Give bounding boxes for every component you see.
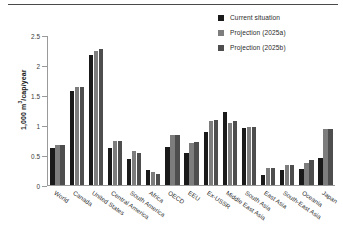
y-tick-label: 2.5 <box>31 33 40 40</box>
bar[interactable] <box>204 132 208 185</box>
bar-groups <box>48 21 335 185</box>
bar-group <box>297 21 316 185</box>
bar[interactable] <box>50 148 54 185</box>
plot-area: 00.511.522.5 <box>47 21 335 186</box>
bar[interactable] <box>247 127 251 185</box>
y-tick-label: 0.5 <box>31 153 40 160</box>
x-label-cell: Canada <box>67 188 86 237</box>
bar[interactable] <box>89 55 93 185</box>
bar-group <box>220 21 239 185</box>
bar[interactable] <box>223 112 227 185</box>
y-tick-mark: 1 <box>42 126 47 127</box>
x-label-cell: Africa <box>144 188 163 237</box>
bar[interactable] <box>189 143 193 185</box>
bar[interactable] <box>99 49 103 185</box>
x-label-cell: OECD <box>163 188 182 237</box>
bar[interactable] <box>233 121 237 185</box>
x-label-cell: South-East Asia <box>278 188 297 237</box>
bar-group <box>201 21 220 185</box>
x-label-cell: EEU <box>182 188 201 237</box>
x-tick-label: EEU <box>187 189 202 202</box>
x-label-cell: Central America <box>105 188 124 237</box>
x-axis-labels: WorldCanadaUnited StatesCentral AmericaS… <box>48 188 335 237</box>
bar-group <box>86 21 105 185</box>
bar[interactable] <box>113 141 117 185</box>
bar[interactable] <box>165 147 169 185</box>
bar[interactable] <box>156 174 160 185</box>
bar[interactable] <box>309 160 313 185</box>
x-label-cell: United States <box>86 188 105 237</box>
x-label-cell: East Asia <box>259 188 278 237</box>
bar[interactable] <box>214 120 218 185</box>
bar-group <box>239 21 258 185</box>
bar[interactable] <box>209 121 213 185</box>
bar[interactable] <box>228 123 232 185</box>
bar[interactable] <box>60 145 64 185</box>
x-label-cell: Japan <box>316 188 335 237</box>
bar[interactable] <box>323 129 327 185</box>
bar[interactable] <box>285 165 289 185</box>
x-label-cell: South Asia <box>239 188 258 237</box>
bar[interactable] <box>184 153 188 185</box>
bar-group <box>316 21 335 185</box>
bar[interactable] <box>151 172 155 185</box>
bar[interactable] <box>94 51 98 185</box>
bar[interactable] <box>290 165 294 185</box>
y-tick-mark: 1.5 <box>42 96 47 97</box>
bar[interactable] <box>118 141 122 185</box>
bar-group <box>163 21 182 185</box>
y-tick-mark: 2.5 <box>42 36 47 37</box>
y-tick-mark: 2 <box>42 66 47 67</box>
x-label-cell: World <box>48 188 67 237</box>
bar[interactable] <box>108 148 112 185</box>
bar[interactable] <box>137 153 141 185</box>
bar[interactable] <box>170 135 174 185</box>
bar[interactable] <box>70 91 74 185</box>
bar[interactable] <box>299 169 303 185</box>
x-label-cell: Middle East Asia <box>220 188 239 237</box>
bar[interactable] <box>328 129 332 185</box>
bar[interactable] <box>175 135 179 185</box>
top-divider <box>8 4 338 5</box>
bar[interactable] <box>55 145 59 185</box>
bar[interactable] <box>266 168 270 185</box>
x-axis-line <box>47 185 335 186</box>
y-tick-label: 0 <box>36 183 40 190</box>
bar-group <box>125 21 144 185</box>
bar-group <box>67 21 86 185</box>
bar-group <box>105 21 124 185</box>
bar-group <box>144 21 163 185</box>
bar[interactable] <box>252 127 256 185</box>
y-tick-mark: 0 <box>42 186 47 187</box>
bar-group <box>259 21 278 185</box>
x-label-cell: South America <box>125 188 144 237</box>
bar[interactable] <box>304 163 308 185</box>
bar[interactable] <box>127 159 131 185</box>
figure-container: Current situationProjection (2025a)Proje… <box>0 0 343 237</box>
bar[interactable] <box>242 128 246 185</box>
x-label-cell: Ex-USSR <box>201 188 220 237</box>
bar-group <box>48 21 67 185</box>
x-label-cell: Oceania <box>297 188 316 237</box>
bar[interactable] <box>194 142 198 185</box>
y-tick-label: 1 <box>36 123 40 130</box>
y-tick-label: 2 <box>36 63 40 70</box>
bar[interactable] <box>280 170 284 185</box>
bar[interactable] <box>318 158 322 185</box>
y-tick-label: 1.5 <box>31 93 40 100</box>
y-axis-title: 1,000 m3/cap/year <box>17 45 26 155</box>
y-tick-mark: 0.5 <box>42 156 47 157</box>
bar[interactable] <box>146 170 150 185</box>
bar-group <box>278 21 297 185</box>
x-tick-label: Japan <box>321 189 339 205</box>
bar[interactable] <box>261 175 265 185</box>
bar[interactable] <box>75 87 79 185</box>
bar[interactable] <box>80 87 84 185</box>
bar[interactable] <box>271 168 275 185</box>
bar[interactable] <box>132 151 136 185</box>
bar-group <box>182 21 201 185</box>
